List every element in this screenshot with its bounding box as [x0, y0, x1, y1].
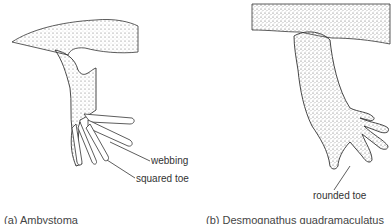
squared-toe-pointer	[107, 160, 135, 178]
label-rounded-toe: rounded toe	[313, 190, 366, 201]
panel-b-salamander-foot: rounded toe (b) Desmognathus quadramacul…	[200, 0, 392, 224]
label-webbing: webbing	[151, 155, 188, 166]
panel-a-salamander-foot: webbing squared toe (a) Ambystoma	[0, 0, 200, 224]
foot-drawing-a-illustration	[0, 0, 200, 224]
caption-a: (a) Ambystoma	[4, 214, 78, 224]
caption-b: (b) Desmognathus quadramaculatus	[206, 214, 384, 224]
rounded-toe-pointer	[334, 166, 350, 190]
label-squared-toe: squared toe	[136, 173, 189, 184]
